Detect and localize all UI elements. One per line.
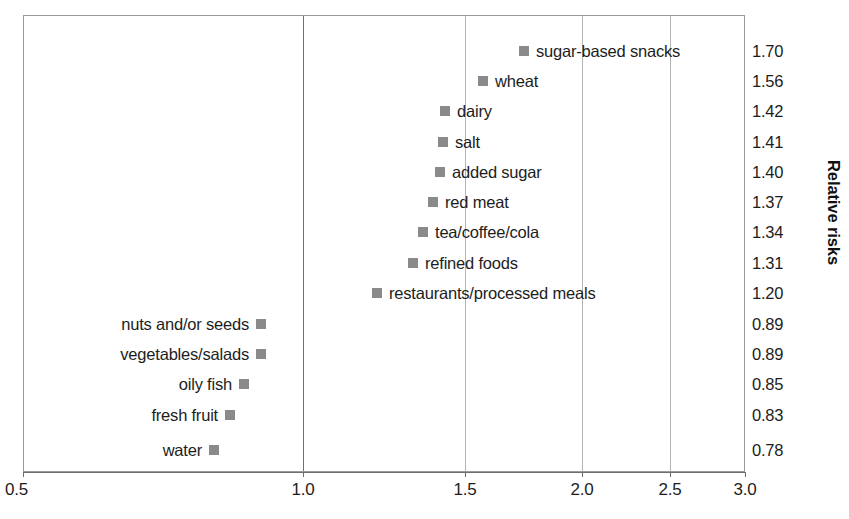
data-point-label: water bbox=[163, 442, 202, 459]
data-point-marker bbox=[418, 227, 428, 237]
data-point-row[interactable]: refined foods bbox=[408, 250, 518, 276]
data-point-label: nuts and/or seeds bbox=[121, 316, 249, 333]
x-tick-label: 2.0 bbox=[570, 480, 593, 500]
value-label: 0.85 bbox=[752, 371, 808, 397]
data-point-row[interactable]: tea/coffee/cola bbox=[418, 219, 539, 245]
x-tick-label: 0.5 bbox=[5, 480, 28, 500]
value-label: 0.89 bbox=[752, 341, 808, 367]
data-point-label: sugar-based snacks bbox=[536, 43, 680, 60]
data-point-row[interactable]: salt bbox=[438, 129, 480, 155]
data-point-marker bbox=[225, 410, 235, 420]
data-point-label: refined foods bbox=[425, 255, 518, 272]
value-label: 1.31 bbox=[752, 250, 808, 276]
data-point-marker bbox=[428, 197, 438, 207]
x-axis-line bbox=[23, 472, 745, 473]
y-axis-title: Relative risks bbox=[824, 160, 843, 340]
data-point-row[interactable]: fresh fruit bbox=[0, 402, 235, 428]
data-point-label: restaurants/processed meals bbox=[389, 285, 595, 302]
value-label: 1.70 bbox=[752, 38, 808, 64]
data-point-marker bbox=[372, 288, 382, 298]
value-label: 1.42 bbox=[752, 98, 808, 124]
data-point-label: red meat bbox=[445, 194, 509, 211]
data-point-row[interactable]: water bbox=[0, 437, 219, 463]
data-point-row[interactable]: restaurants/processed meals bbox=[372, 280, 595, 306]
data-point-row[interactable]: sugar-based snacks bbox=[519, 38, 680, 64]
x-tick-label: 3.0 bbox=[733, 480, 756, 500]
value-label: 0.78 bbox=[752, 437, 808, 463]
gridline-2.0 bbox=[582, 16, 583, 471]
data-point-marker bbox=[478, 76, 488, 86]
data-point-marker bbox=[438, 137, 448, 147]
gridline-2.5 bbox=[670, 16, 671, 471]
data-point-marker bbox=[256, 319, 266, 329]
value-label: 1.41 bbox=[752, 129, 808, 155]
value-label: 1.56 bbox=[752, 68, 808, 94]
data-point-label: salt bbox=[455, 134, 480, 151]
value-label: 1.37 bbox=[752, 189, 808, 215]
data-point-row[interactable]: vegetables/salads bbox=[0, 341, 266, 367]
x-tick-mark-1.0 bbox=[303, 472, 304, 477]
data-point-row[interactable]: red meat bbox=[428, 189, 509, 215]
relative-risks-scatter-chart: sugar-based snackswheatdairysaltadded su… bbox=[0, 0, 849, 519]
data-point-label: wheat bbox=[495, 73, 538, 90]
x-tick-mark-0.5 bbox=[23, 472, 24, 477]
data-point-marker bbox=[519, 46, 529, 56]
x-tick-label: 2.5 bbox=[658, 480, 681, 500]
data-point-marker bbox=[209, 445, 219, 455]
x-tick-mark-3.0 bbox=[745, 472, 746, 477]
data-point-label: vegetables/salads bbox=[120, 346, 249, 363]
value-label: 1.34 bbox=[752, 219, 808, 245]
data-point-label: fresh fruit bbox=[151, 407, 218, 424]
data-point-marker bbox=[440, 106, 450, 116]
data-point-row[interactable]: nuts and/or seeds bbox=[0, 311, 266, 337]
data-point-marker bbox=[256, 349, 266, 359]
x-tick-label: 1.5 bbox=[453, 480, 476, 500]
data-point-marker bbox=[239, 379, 249, 389]
value-labels-column: 1.701.561.421.411.401.371.341.311.200.89… bbox=[752, 15, 814, 472]
x-tick-mark-2.5 bbox=[670, 472, 671, 477]
x-tick-mark-1.5 bbox=[465, 472, 466, 477]
data-point-marker bbox=[408, 258, 418, 268]
data-point-row[interactable]: oily fish bbox=[0, 371, 249, 397]
value-label: 1.20 bbox=[752, 280, 808, 306]
data-point-label: dairy bbox=[457, 103, 492, 120]
data-point-label: oily fish bbox=[179, 376, 232, 393]
value-label: 0.89 bbox=[752, 311, 808, 337]
value-label: 0.83 bbox=[752, 402, 808, 428]
gridline-1.0 bbox=[303, 16, 304, 471]
data-point-label: tea/coffee/cola bbox=[435, 224, 539, 241]
data-point-label: added sugar bbox=[452, 164, 542, 181]
data-point-row[interactable]: added sugar bbox=[435, 159, 542, 185]
x-tick-label: 1.0 bbox=[291, 480, 314, 500]
data-point-marker bbox=[435, 167, 445, 177]
value-label: 1.40 bbox=[752, 159, 808, 185]
data-point-row[interactable]: wheat bbox=[478, 68, 538, 94]
x-tick-mark-2.0 bbox=[582, 472, 583, 477]
data-point-row[interactable]: dairy bbox=[440, 98, 492, 124]
